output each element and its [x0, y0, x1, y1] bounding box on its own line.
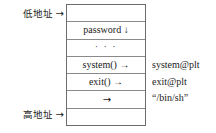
stack-row: exit() →	[67, 74, 145, 91]
stack-layout-diagram: 低地址→ 高地址→ password ↓ · · · system() → ex…	[0, 0, 216, 133]
stack-cell-text: exit() →	[89, 77, 123, 87]
low-address-text: 低地址	[23, 8, 54, 19]
annotation-system-plt: system@plt	[152, 59, 200, 70]
stack-row: password ↓	[67, 22, 145, 39]
right-arrow-icon: →	[101, 95, 111, 105]
right-arrow-icon: →	[54, 8, 64, 19]
stack-box: password ↓ · · · system() → exit() → →	[66, 4, 146, 126]
high-address-text: 高地址	[23, 109, 54, 120]
stack-row	[67, 5, 145, 22]
annotation-exit-plt: exit@plt	[152, 76, 187, 87]
stack-cell-text: password ↓	[83, 25, 128, 35]
stack-row: · · ·	[67, 40, 145, 57]
stack-cell-text: system() →	[83, 60, 130, 70]
annotation-bin-sh: “/bin/sh”	[152, 92, 188, 103]
stack-row	[67, 109, 145, 125]
stack-row: →	[67, 91, 145, 108]
stack-row: system() →	[67, 57, 145, 74]
right-arrow-icon: →	[54, 109, 64, 120]
low-address-label: 低地址→	[0, 8, 64, 20]
high-address-label: 高地址→	[0, 109, 64, 121]
ellipsis-icon: · · ·	[95, 43, 117, 52]
